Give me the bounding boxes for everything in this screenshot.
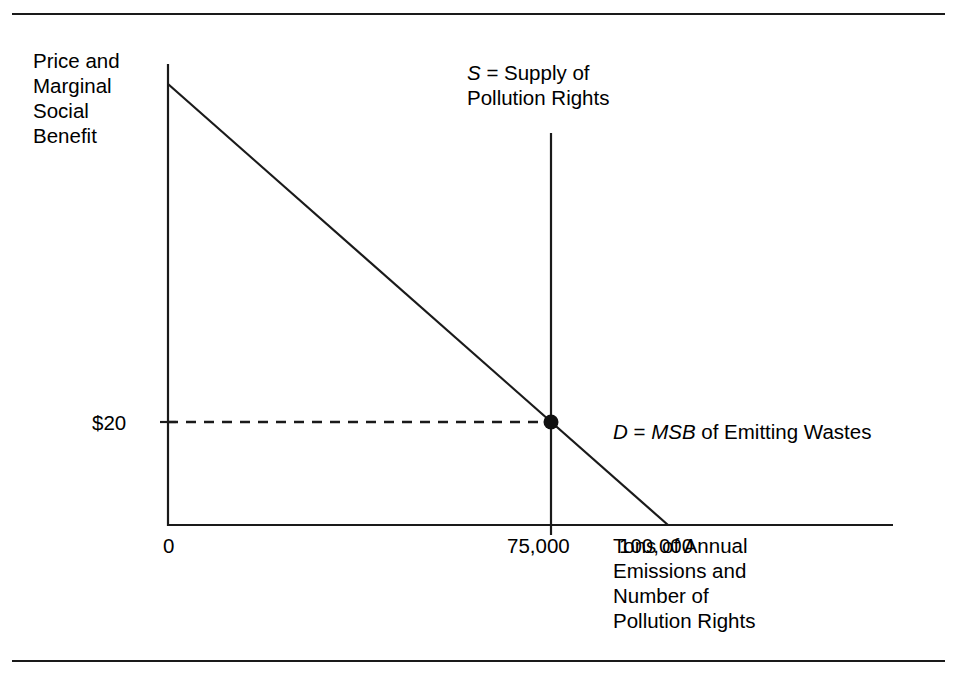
demand-curve-label: D = MSB of Emitting Wastes [613, 419, 871, 444]
supply-curve-label: S = Supply of Pollution Rights [467, 60, 609, 110]
equilibrium-point-marker [544, 415, 559, 430]
demand-label-text: of Emitting Wastes [696, 420, 872, 443]
pollution-rights-figure: Price and Marginal Social Benefit S = Su… [0, 0, 959, 676]
x-axis-tick-label-75000: 75,000 [507, 533, 570, 558]
x-axis-title: Tons of Annual Emissions and Number of P… [613, 533, 913, 633]
y-axis-tick-label-20: $20 [92, 410, 126, 435]
x-axis-tick-label-origin: 0 [163, 533, 174, 558]
demand-curve-line [168, 84, 668, 525]
y-axis-title: Price and Marginal Social Benefit [33, 48, 120, 148]
demand-equals-sign: = [628, 420, 651, 443]
demand-symbol-d: D [613, 420, 628, 443]
supply-symbol-s: S [467, 61, 481, 84]
demand-symbol-msb: MSB [651, 420, 695, 443]
supply-label-text: = Supply of Pollution Rights [467, 61, 609, 109]
